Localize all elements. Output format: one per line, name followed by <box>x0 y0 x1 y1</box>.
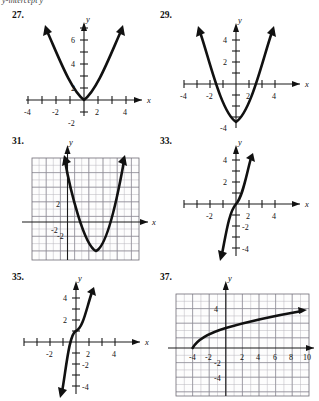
panel-35-xlabel--2: -2 <box>46 350 53 359</box>
panel-33-plot: -2 2 4 4 2 -2 -4 x y <box>176 134 319 266</box>
panel-35: 35. <box>0 268 160 401</box>
panel-33-ylabel-4: 4 <box>223 156 227 165</box>
panel-29-xlabel--2: -2 <box>206 92 213 101</box>
panel-29-xlabel--4: -4 <box>180 92 187 101</box>
panel-35-plot: -2 2 4 4 2 -2 -4 x y <box>14 270 160 401</box>
panel-33-xlabel-2: 2 <box>246 212 250 221</box>
panel-29-ylabel-4: 4 <box>223 36 227 45</box>
panel-37-xlabel-6: 6 <box>273 353 277 362</box>
panel-31-ylabel--2: -2 <box>57 232 64 241</box>
panel-35-ylabel--2: -2 <box>82 361 89 370</box>
panel-37: 37. <box>158 268 319 401</box>
panel-31-plot: 2 -2 -2 x y <box>14 134 160 264</box>
panel-37-xlabel-4: 4 <box>256 353 260 362</box>
panel-37-plot: -4 -2 2 4 6 8 10 4 -2 -4 y <box>164 270 319 401</box>
panel-27-axis-name-y: y <box>85 14 90 24</box>
panel-37-ylabel--4: -4 <box>214 374 221 383</box>
panel-33-axis-name-x: x <box>304 199 309 209</box>
answer-key-graph-grid: 27. <box>0 4 319 397</box>
panel-35-axis-name-y: y <box>77 273 82 283</box>
panel-29-axis-name-x: x <box>304 79 309 89</box>
panel-29-plot: -4 -2 2 4 4 2 -4 x y <box>176 12 319 132</box>
panel-27: 27. <box>0 8 160 130</box>
panel-33: 33. <box>158 132 319 266</box>
panel-33-axis-name-y: y <box>237 137 242 147</box>
panel-33-ylabel--2: -2 <box>242 223 249 232</box>
panel-37-xlabel--4: -4 <box>189 353 196 362</box>
panel-35-ylabel-4: 4 <box>63 294 67 303</box>
panel-35-axis-name-x: x <box>144 337 149 347</box>
panel-29-xlabel-4: 4 <box>272 92 276 101</box>
panel-29: 29. <box>158 8 319 130</box>
panel-37-xlabel--2: -2 <box>205 353 212 362</box>
panel-31-axis-name-x: x <box>151 217 156 227</box>
panel-29-axis-name-y: y <box>237 15 242 25</box>
panel-27-axis-name-x: x <box>146 95 151 105</box>
panel-27-xlabel--2: -2 <box>52 108 59 117</box>
panel-37-xlabel-8: 8 <box>289 353 293 362</box>
panel-31-ylabel-2: 2 <box>56 200 60 209</box>
panel-35-xlabel-4: 4 <box>112 350 116 359</box>
panel-27-plot: -4 -2 2 4 6 4 2 -2 x y <box>14 12 160 130</box>
panel-27-xlabel-2: 2 <box>95 108 99 117</box>
panel-31-axis-name-y: y <box>68 137 73 147</box>
panel-33-ylabel-2: 2 <box>223 178 227 187</box>
panel-33-xlabel--2: -2 <box>206 212 213 221</box>
panel-33-number: 33. <box>160 136 172 146</box>
panel-33-ylabel--4: -4 <box>242 245 249 254</box>
panel-33-xlabel-4: 4 <box>272 212 276 221</box>
panel-31: 31. <box>0 132 160 266</box>
panel-27-ylabel-6: 6 <box>71 36 75 45</box>
panel-27-xlabel-4: 4 <box>123 108 127 117</box>
panel-37-ylabel-4: 4 <box>214 305 218 314</box>
panel-37-xlabel-10: 10 <box>303 353 311 362</box>
panel-37-ylabel--2: -2 <box>214 359 221 368</box>
panel-29-number: 29. <box>160 10 172 20</box>
panel-35-ylabel--4: -4 <box>82 383 89 392</box>
panel-37-xlabel-2: 2 <box>240 353 244 362</box>
panel-29-ylabel-2: 2 <box>223 58 227 67</box>
panel-37-axis-name-y: y <box>227 273 232 283</box>
panel-27-ylabel--2: -2 <box>68 119 75 128</box>
panel-35-xlabel-2: 2 <box>86 350 90 359</box>
panel-27-xlabel--4: -4 <box>24 108 31 117</box>
panel-27-ylabel-4: 4 <box>71 60 75 69</box>
panel-35-ylabel-2: 2 <box>63 316 67 325</box>
